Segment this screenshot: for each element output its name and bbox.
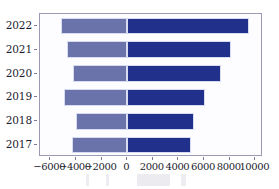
x-tickmark-7 [229, 157, 230, 160]
bar-positive-2021 [127, 41, 231, 58]
y-tickmark-2018 [34, 120, 37, 121]
y-tickmark-2019 [34, 96, 37, 97]
caption-artifact [78, 174, 204, 186]
x-tickmark-0 [49, 157, 50, 160]
y-tickmark-2021 [34, 49, 37, 50]
bar-group-2018 [40, 113, 261, 130]
y-tickmark-2022 [34, 25, 37, 26]
x-tickmark-8 [254, 157, 255, 160]
x-tick-label-5: 4000 [165, 161, 189, 172]
x-tick-label-6: 6000 [191, 161, 215, 172]
y-axis-tick-labels: 202220212020201920182017 [0, 13, 37, 156]
bar-negative-2022 [61, 18, 128, 35]
plot-area [39, 13, 262, 156]
bar-negative-2021 [67, 41, 127, 58]
x-tick-label-8: 10000 [239, 161, 269, 172]
bar-group-2020 [40, 65, 261, 82]
y-tick-label-2019: 2019 [6, 90, 32, 102]
y-tick-label-2022: 2022 [6, 19, 32, 31]
bar-group-2017 [40, 137, 261, 154]
y-tick-label-2017: 2017 [6, 138, 32, 150]
x-tick-label-7: 8000 [217, 161, 241, 172]
y-tick-label-2018: 2018 [6, 114, 32, 126]
bar-group-2021 [40, 41, 261, 58]
chart-figure: 202220212020201920182017 −6000−4000−2000… [0, 0, 279, 189]
x-axis-tick-labels: −6000−4000−20000200040006000800010000 [39, 157, 262, 173]
y-tickmark-2020 [34, 73, 37, 74]
x-tick-label-4: 2000 [140, 161, 164, 172]
y-tick-label-2020: 2020 [6, 67, 32, 79]
x-tickmark-6 [203, 157, 204, 160]
x-tickmark-3 [126, 157, 127, 160]
y-tickmark-2017 [34, 144, 37, 145]
bar-negative-2018 [76, 113, 127, 130]
bar-negative-2019 [64, 89, 127, 106]
bars-layer [40, 14, 261, 155]
x-tick-label-3: 0 [123, 161, 129, 172]
x-tickmark-5 [177, 157, 178, 160]
bar-positive-2022 [127, 18, 249, 35]
bar-positive-2019 [127, 89, 205, 106]
x-tickmark-2 [101, 157, 102, 160]
bar-group-2022 [40, 18, 261, 35]
y-tick-label-2021: 2021 [6, 43, 32, 55]
bar-positive-2017 [127, 137, 191, 154]
bar-negative-2020 [73, 65, 127, 82]
bar-group-2019 [40, 89, 261, 106]
bar-negative-2017 [72, 137, 127, 154]
bar-positive-2020 [127, 65, 221, 82]
bar-positive-2018 [127, 113, 194, 130]
x-tickmark-1 [75, 157, 76, 160]
x-tickmark-4 [152, 157, 153, 160]
x-tick-label-2: −2000 [85, 161, 117, 172]
